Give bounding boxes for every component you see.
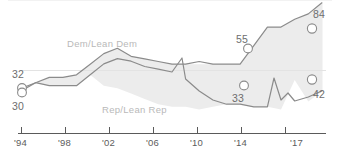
rep-start-marker <box>18 88 27 97</box>
rep-mid-marker <box>240 81 249 90</box>
dem-series-label: Dem/Lean Dem <box>67 38 137 49</box>
x-tick-label-3: '06 <box>146 137 159 148</box>
rep-end-value: 42 <box>313 88 325 100</box>
dem-mid-value: 55 <box>236 33 248 45</box>
x-tick-label-1: '98 <box>58 137 71 148</box>
x-axis-ticks <box>22 127 286 133</box>
x-tick-label-4: '10 <box>190 137 203 148</box>
x-tick-label-2: '02 <box>102 137 115 148</box>
rep-mid-value: 33 <box>232 92 244 104</box>
chart-figure: Dem/Lean Dem Rep/Lean Rep 32 30 55 33 84… <box>0 0 340 161</box>
dem-start-value: 32 <box>12 68 24 80</box>
rep-start-value: 30 <box>12 100 24 112</box>
chart-canvas <box>0 0 340 161</box>
rep-end-marker <box>307 75 316 84</box>
dem-end-value: 84 <box>313 8 325 20</box>
x-tick-label-0: '94 <box>14 137 27 148</box>
dem-end-marker <box>307 24 316 33</box>
x-tick-label-6: '17 <box>290 137 303 148</box>
rep-series-label: Rep/Lean Rep <box>102 104 167 115</box>
series-gap-fill <box>22 3 323 110</box>
dem-mid-marker <box>244 44 253 53</box>
x-tick-label-5: '14 <box>234 137 247 148</box>
